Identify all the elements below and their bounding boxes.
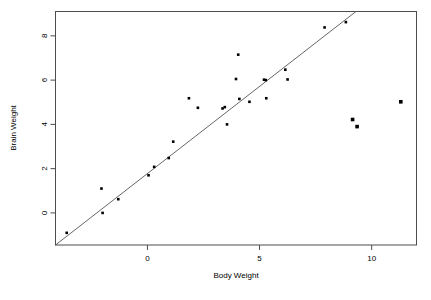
data-point xyxy=(355,125,359,129)
data-point xyxy=(323,26,326,29)
data-point xyxy=(147,174,150,177)
data-point xyxy=(117,198,120,201)
data-point xyxy=(100,187,103,190)
data-point xyxy=(197,106,200,109)
data-point xyxy=(345,21,348,24)
y-tick-label: 4 xyxy=(40,122,49,127)
y-tick-label: 0 xyxy=(40,210,49,215)
data-point xyxy=(284,68,287,71)
x-tick-label: 0 xyxy=(145,254,150,263)
data-point xyxy=(172,140,175,143)
y-tick-label: 2 xyxy=(40,166,49,171)
data-point xyxy=(248,101,251,104)
data-point xyxy=(65,232,68,235)
data-point xyxy=(238,98,241,101)
data-point xyxy=(221,107,224,110)
scatter-plot-figure: 0510 Body Weight 02468 Brain Weight xyxy=(0,0,431,300)
x-tick-label: 10 xyxy=(367,254,376,263)
data-point xyxy=(235,78,238,81)
data-point xyxy=(223,106,226,109)
y-tick-label: 6 xyxy=(40,77,49,82)
data-point xyxy=(226,123,229,126)
data-point xyxy=(265,97,268,100)
data-point xyxy=(188,97,191,100)
data-point xyxy=(167,157,170,160)
data-point xyxy=(399,100,403,104)
data-point xyxy=(101,212,104,215)
data-point xyxy=(237,53,240,56)
x-axis-title: Body Weight xyxy=(213,271,259,280)
x-tick-label: 5 xyxy=(257,254,262,263)
y-axis-title: Brain Weight xyxy=(9,104,18,150)
data-point xyxy=(286,78,289,81)
plot-canvas: 0510 Body Weight 02468 Brain Weight xyxy=(0,0,431,300)
data-point xyxy=(351,118,355,122)
data-point xyxy=(265,79,268,82)
data-point xyxy=(153,166,156,169)
y-tick-label: 8 xyxy=(40,33,49,38)
